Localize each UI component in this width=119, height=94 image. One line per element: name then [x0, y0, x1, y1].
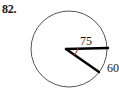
radius-line-horizontal [66, 48, 108, 49]
arc-measure-label: 60 [107, 61, 119, 75]
chord-line-slanted [66, 49, 99, 72]
problem-figure: 82. 75 60 [0, 0, 119, 94]
circle-angle-diagram: 75 60 [0, 0, 119, 94]
radius-measure-label: 75 [80, 34, 92, 48]
